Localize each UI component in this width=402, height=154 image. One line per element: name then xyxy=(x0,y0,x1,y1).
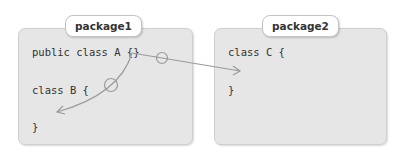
dependency-arrows xyxy=(0,0,402,154)
arrow-a-to-b xyxy=(57,53,132,114)
arrow-a-to-c xyxy=(132,53,240,76)
